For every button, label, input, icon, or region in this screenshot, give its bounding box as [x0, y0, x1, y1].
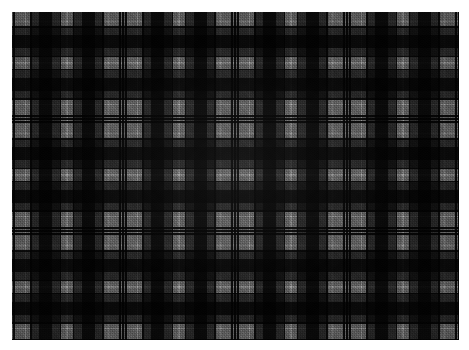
- tartan-cloth: [12, 12, 459, 340]
- thread-grid-layer: [12, 12, 459, 340]
- twill-counter-diagonal-layer: [12, 12, 459, 340]
- weft-stripes-layer: [12, 12, 459, 340]
- cloth-vignette-layer: [12, 12, 459, 340]
- twill-diagonal-layer: [12, 12, 459, 340]
- fabric-grain-layer: [12, 12, 459, 340]
- warp-stripes-layer: [12, 12, 459, 340]
- image-canvas: [0, 0, 469, 350]
